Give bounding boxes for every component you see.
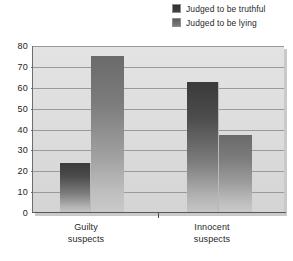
x-category-label-guilty: Guilty suspects <box>44 222 128 245</box>
x-category-label-innocent-line2: suspects <box>170 234 254 246</box>
legend-label-truthful: Judged to be truthful <box>186 4 266 14</box>
x-category-label-guilty-line1: Guilty <box>44 222 128 234</box>
dark-gray-square-icon <box>172 4 181 13</box>
bar-innocent-truthful <box>187 82 219 214</box>
y-tick-label-40: 40 <box>6 126 28 135</box>
gridline-70 <box>32 67 284 68</box>
y-tick-label-0: 0 <box>6 209 28 218</box>
y-tick-label-30: 30 <box>6 146 28 155</box>
y-tick-label-10: 10 <box>6 188 28 197</box>
gridline-40 <box>32 130 284 131</box>
bar-guilty-lying <box>91 56 124 213</box>
gridline-60 <box>32 88 284 89</box>
y-tick-label-50: 50 <box>6 105 28 114</box>
y-axis: 80 70 60 50 40 30 20 10 0 <box>4 46 28 213</box>
x-category-label-innocent-line1: Innocent <box>170 222 254 234</box>
chart-legend: Judged to be truthful Judged to be lying <box>172 2 293 30</box>
legend-label-lying: Judged to be lying <box>186 18 257 28</box>
y-tick-label-60: 60 <box>6 84 28 93</box>
gridline-50 <box>32 109 284 110</box>
grouped-bar-chart: Judged to be truthful Judged to be lying… <box>0 0 293 261</box>
bar-innocent-lying <box>219 135 252 213</box>
bar-guilty-truthful <box>60 163 91 213</box>
y-tick-label-80: 80 <box>6 42 28 51</box>
y-tick-label-70: 70 <box>6 63 28 72</box>
legend-item-truthful: Judged to be truthful <box>172 2 293 15</box>
x-axis-line <box>32 212 286 213</box>
light-gray-square-icon <box>172 18 181 27</box>
x-axis-center-tick <box>158 213 159 218</box>
y-axis-line <box>32 46 33 213</box>
x-category-label-innocent: Innocent suspects <box>170 222 254 245</box>
gridline-80 <box>32 46 284 47</box>
plot-area <box>32 46 284 213</box>
x-category-label-guilty-line2: suspects <box>44 234 128 246</box>
legend-item-lying: Judged to be lying <box>172 16 293 29</box>
y-tick-label-20: 20 <box>6 167 28 176</box>
